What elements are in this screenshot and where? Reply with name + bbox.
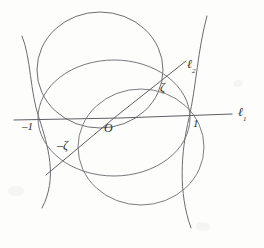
label-minus-one: –1 [22, 121, 33, 132]
figure-canvas: –1 1 O ζ –ζ ℓ1 ℓ2 [0, 0, 264, 248]
geometry-diagram [0, 0, 264, 248]
label-minus-zeta: –ζ [57, 139, 68, 151]
label-origin: O [104, 122, 113, 134]
label-one: 1 [193, 118, 199, 129]
line-ell-1 [14, 114, 232, 120]
circle-upper-left [37, 12, 163, 128]
label-line-ell-2-subscript: 2 [192, 67, 196, 75]
label-zeta: ζ [160, 81, 165, 93]
circle-lower-right [78, 89, 204, 205]
label-line-ell-1-subscript: 1 [243, 115, 247, 123]
label-line-ell-2: ℓ2 [187, 58, 196, 73]
label-line-ell-1: ℓ1 [238, 106, 247, 121]
